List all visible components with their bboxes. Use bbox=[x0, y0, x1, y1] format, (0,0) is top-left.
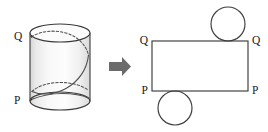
net-group: Q Q P P bbox=[140, 7, 261, 125]
net-label-p-left: P bbox=[142, 84, 148, 96]
point-p-marker bbox=[30, 98, 32, 100]
net-rectangle bbox=[152, 41, 248, 91]
cylinder-label-q: Q bbox=[14, 30, 23, 42]
transform-arrow-icon bbox=[109, 57, 131, 76]
cylinder-net-figure: Q P Q Q P P bbox=[0, 0, 268, 132]
net-label-q-left: Q bbox=[140, 34, 149, 46]
transform-arrow-group bbox=[109, 57, 131, 76]
net-label-q-right: Q bbox=[252, 34, 261, 46]
cylinder-label-p: P bbox=[14, 94, 20, 106]
cylinder-body-fill bbox=[30, 33, 90, 110]
net-bottom-circle bbox=[158, 91, 192, 125]
cylinder-group: Q P bbox=[14, 24, 90, 110]
point-q-marker bbox=[30, 35, 32, 37]
net-label-p-right: P bbox=[252, 84, 258, 96]
figure-container: Q P Q Q P P bbox=[0, 0, 268, 132]
net-top-circle bbox=[211, 7, 245, 41]
